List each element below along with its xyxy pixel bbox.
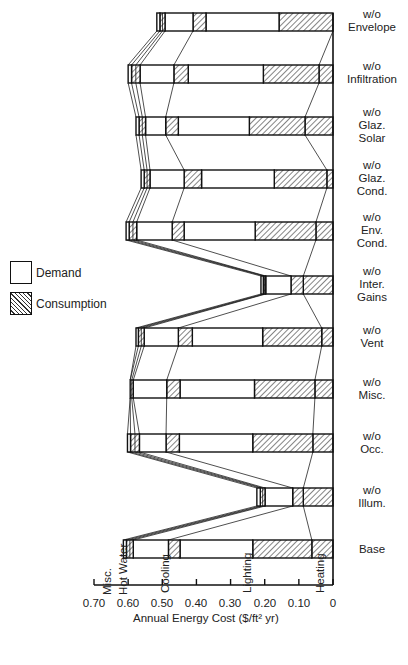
bar-segment-heating-consumption	[322, 328, 333, 346]
bar-segment-heating-consumption	[303, 488, 333, 506]
row-label: w/o Env. Cond.	[336, 211, 408, 250]
connector-line	[128, 83, 136, 117]
bar-segment-cooling-demand	[140, 65, 174, 83]
x-tick-label: 0.30	[219, 597, 241, 609]
connector-line	[137, 240, 266, 276]
connector-line	[133, 240, 265, 276]
bar-segment-misc	[127, 434, 130, 452]
bar-segment-misc	[136, 328, 138, 346]
bar-segment-misc	[257, 488, 260, 506]
x-tick-label: 0.40	[185, 597, 207, 609]
bar-segment-heating-consumption	[313, 434, 333, 452]
connector-line	[127, 398, 130, 434]
bar-segment-cooling-demand	[265, 488, 293, 506]
bar-row	[130, 380, 333, 398]
x-axis-title: Annual Energy Cost ($/ft² yr)	[133, 612, 279, 624]
row-label: w/o Vent	[336, 324, 408, 350]
x-tick-label: 0.70	[83, 597, 105, 609]
bar-segment-lighting-demand	[180, 380, 254, 398]
bars-group	[123, 13, 333, 558]
bar-segment-cooling-demand	[146, 117, 166, 135]
bar-row	[123, 540, 333, 558]
bar-segment-cooling-consumption	[178, 328, 192, 346]
bar-segment-cooling-demand	[150, 170, 184, 188]
bar-segment-lighting-consumption	[249, 117, 305, 135]
bar-row	[127, 434, 333, 452]
bar-segment-lighting-demand	[184, 222, 255, 240]
bar-segment-cooling-demand	[144, 328, 178, 346]
legend-consumption: Consumption	[10, 292, 107, 315]
x-tick-label: 0.60	[117, 597, 139, 609]
bar-segment-misc	[157, 13, 160, 31]
bar-row	[261, 276, 333, 294]
bar-segment-cooling-demand	[139, 434, 166, 452]
connector-line	[172, 240, 291, 276]
bar-segment-cooling-demand	[266, 276, 291, 294]
bar-segment-misc	[126, 222, 129, 240]
connector-line	[135, 452, 263, 488]
x-tick-label: 0.20	[254, 597, 276, 609]
bar-segment-lighting-consumption	[255, 222, 316, 240]
bar-row	[136, 117, 333, 135]
connector-line	[132, 83, 140, 117]
enduse-label-heating: Heating	[314, 553, 326, 593]
connector-line	[303, 506, 312, 540]
bar-segment-cooling-consumption	[166, 117, 179, 135]
connector-line	[126, 506, 260, 540]
bar-segment-heating-consumption	[303, 276, 333, 294]
x-tick-label: 0	[330, 597, 336, 609]
enduse-label-misc: Misc.	[101, 568, 113, 595]
row-label: w/o Occ.	[336, 430, 408, 456]
connector-line	[303, 294, 321, 328]
legend-consumption-label: Consumption	[36, 297, 107, 311]
row-label: w/o Glaz. Cond.	[336, 159, 408, 198]
connector-line	[303, 452, 313, 488]
x-tick-label: 0.50	[151, 597, 173, 609]
bar-segment-lighting-consumption	[253, 434, 313, 452]
connector-line	[139, 452, 265, 488]
connector-line	[133, 506, 265, 540]
row-label: w/o Illum.	[336, 484, 408, 510]
bar-segment-lighting-demand	[206, 13, 279, 31]
bar-row	[141, 170, 333, 188]
bar-segment-cooling-consumption	[293, 488, 304, 506]
bar-segment-cooling-demand	[137, 222, 173, 240]
bar-segment-heating-consumption	[316, 222, 333, 240]
row-label: w/o Infiltration	[336, 60, 408, 86]
row-label: w/o Misc.	[336, 376, 408, 402]
connector-line	[305, 83, 319, 117]
connector-line	[174, 31, 193, 65]
bar-segment-cooling-consumption	[167, 380, 180, 398]
connector-line	[319, 31, 333, 65]
connector-line	[136, 83, 142, 117]
connector-line	[131, 452, 261, 488]
connector-line	[166, 83, 174, 117]
bar-segment-cooling-consumption	[174, 65, 188, 83]
connector-line	[166, 398, 167, 434]
bar-segment-heating-consumption	[305, 117, 333, 135]
connector-line	[123, 506, 256, 540]
connector-line	[129, 188, 144, 222]
bar-row	[157, 13, 333, 31]
connector-line	[140, 83, 145, 117]
connector-line	[129, 240, 263, 276]
enduse-label-cooling: Cooling	[159, 554, 171, 593]
bar-segment-cooling-consumption	[184, 170, 201, 188]
connector-line	[133, 188, 147, 222]
bar-segment-lighting-demand	[192, 328, 262, 346]
bar-segment-lighting-demand	[178, 117, 249, 135]
bar-segment-heating-consumption	[319, 65, 333, 83]
bar-segment-heating-consumption	[315, 380, 333, 398]
connector-line	[166, 452, 293, 488]
bar-segment-lighting-consumption	[253, 540, 312, 558]
connector-line	[141, 294, 264, 328]
bar-segment-cooling-consumption	[172, 222, 184, 240]
x-axis	[94, 579, 333, 585]
row-label: Base	[336, 543, 408, 556]
bar-segment-lighting-demand	[188, 65, 263, 83]
connector-line	[316, 188, 327, 222]
connector-line	[178, 294, 291, 328]
connector-line	[305, 135, 327, 170]
bar-segment-lighting-demand	[179, 434, 252, 452]
legend-demand-label: Demand	[36, 266, 81, 280]
